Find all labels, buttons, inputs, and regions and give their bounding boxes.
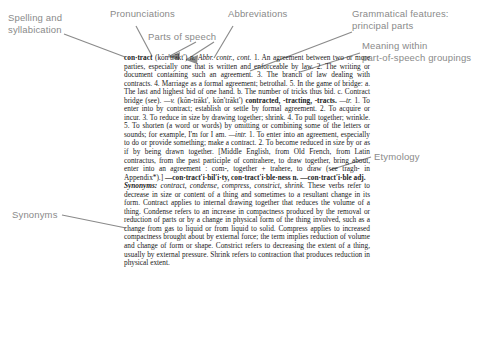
synonyms-discussion: These verbs refer to decrease in size or… (124, 181, 370, 267)
callout-parts-of-speech: Parts of speech (148, 31, 216, 43)
callout-etymology: Etymology (374, 151, 420, 163)
synonyms-block: Synonyms: contract, condense, compress, … (124, 182, 370, 267)
callout-abbreviations: Abbreviations (228, 8, 288, 20)
entry-body: con·tract (kŏn′trăkt′) n. Abbr. contr., … (124, 54, 370, 182)
callout-synonyms: Synonyms (12, 209, 58, 221)
leader-spelling (64, 34, 125, 57)
annotated-dictionary-figure: Spelling and syllabication Pronunciation… (0, 0, 490, 352)
callout-pronunciations: Pronunciations (110, 8, 175, 20)
callout-meaning-groupings: Meaning within part-of-speech groupings (362, 40, 471, 63)
callout-spelling-syllabication: Spelling and syllabication (8, 12, 62, 35)
dictionary-entry: con·tract (kŏn′trăkt′) n. Abbr. contr., … (124, 54, 370, 268)
callout-grammatical-features: Grammatical features: principal parts (352, 8, 449, 31)
leader-synonyms (62, 215, 126, 228)
